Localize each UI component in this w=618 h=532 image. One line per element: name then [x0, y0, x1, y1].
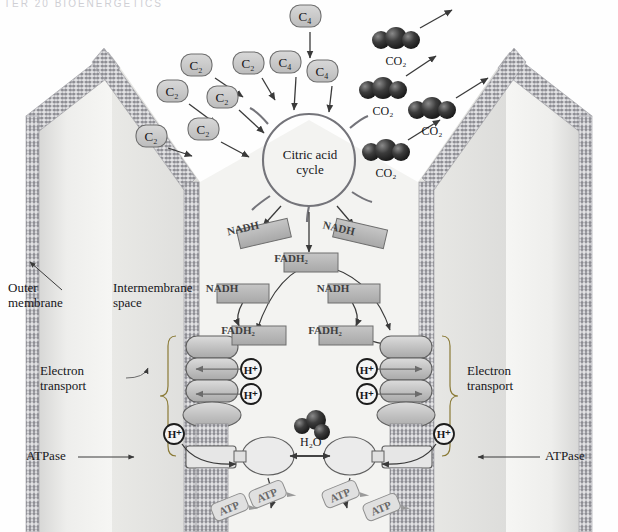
proton-label: H⁺	[240, 360, 262, 380]
carrier-label: FADH₂	[263, 249, 319, 267]
co2-label: CO₂	[379, 53, 413, 69]
carrier-label: NADH	[194, 279, 250, 297]
substrate-label: C₂	[135, 127, 167, 147]
co2-molecule	[408, 97, 456, 119]
substrate-label: C₄	[289, 7, 321, 27]
co2-label: CO₂	[369, 165, 403, 181]
substrate-label: C₂	[187, 120, 219, 140]
substrate-label: C₂	[232, 54, 264, 74]
co2-label: CO₂	[366, 103, 400, 119]
carrier-label: NADH	[305, 279, 361, 297]
proton-label: H⁺	[356, 360, 378, 380]
proton-label: H⁺	[240, 385, 262, 405]
proton-label: H⁺	[433, 424, 455, 444]
substrate-label: C₂	[180, 56, 212, 76]
figure-canvas: TER 20 BIOENERGETICS	[0, 0, 618, 532]
label-electron-transport-right: Electron transport	[467, 364, 513, 394]
label-atpase-right: ATPase	[545, 449, 585, 464]
co2-molecule	[362, 139, 410, 161]
proton-label: H⁺	[164, 424, 186, 444]
proton-label: H⁺	[356, 385, 378, 405]
co2-label: CO₂	[415, 123, 449, 139]
substrate-label: C₂	[156, 82, 188, 102]
label-electron-transport-left: Electron transport	[40, 364, 86, 394]
label-intermembrane-space: Intermembrane space	[113, 281, 192, 311]
co2-molecule	[372, 27, 420, 49]
label-outer-membrane: Outer membrane	[8, 281, 63, 311]
substrate-label: C₂	[206, 88, 238, 108]
co2-molecule	[359, 77, 407, 99]
carrier-label: FADH₂	[210, 321, 266, 339]
label-water: H₂O	[300, 436, 322, 450]
carrier-label: FADH₂	[297, 321, 353, 339]
label-citric-acid-cycle: Citric acid cycle	[275, 148, 345, 178]
substrate-label: C₄	[269, 53, 301, 73]
label-atpase-left: ATPase	[26, 449, 66, 464]
substrate-label: C₄	[306, 62, 338, 82]
